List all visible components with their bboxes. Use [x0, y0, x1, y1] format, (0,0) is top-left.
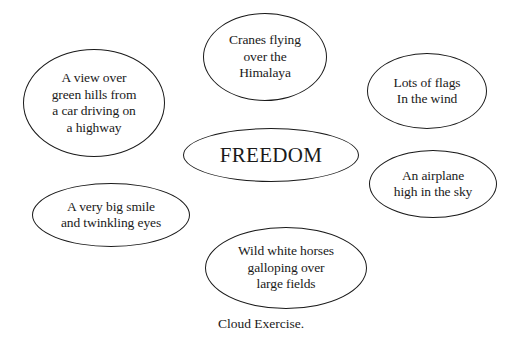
bubble-view: A view over green hills from a car drivi… [23, 49, 165, 157]
figure-caption: Cloud Exercise. [0, 316, 520, 332]
bubble-label: Cranes flying over the Himalaya [229, 32, 301, 82]
bubble-label: A very big smile and twinkling eyes [61, 199, 161, 232]
center-label: FREEDOM [220, 143, 322, 167]
bubble-horses: Wild white horses galloping over large f… [205, 227, 367, 309]
bubble-label: Lots of flags In the wind [394, 75, 461, 108]
bubble-airplane: An airplane high in the sky [369, 150, 497, 218]
bubble-smile: A very big smile and twinkling eyes [32, 183, 190, 247]
bubble-label: An airplane high in the sky [394, 168, 472, 201]
caption-text: Cloud Exercise. [218, 316, 304, 332]
cloud-diagram: FREEDOM Cranes flying over the Himalaya … [0, 0, 520, 347]
bubble-label: Wild white horses galloping over large f… [238, 243, 334, 293]
bubble-cranes: Cranes flying over the Himalaya [203, 13, 327, 101]
bubble-flags: Lots of flags In the wind [367, 53, 487, 129]
bubble-label: A view over green hills from a car drivi… [52, 70, 137, 136]
center-bubble-freedom: FREEDOM [183, 128, 359, 182]
